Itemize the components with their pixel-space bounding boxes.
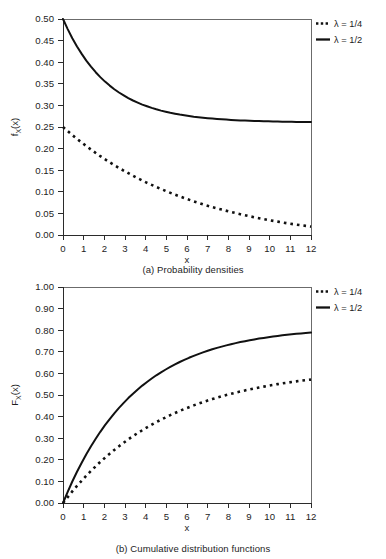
x-ticklabel: 4 <box>143 511 149 522</box>
panel-b-x-ticklabels: 0 1 2 3 4 5 6 7 8 9 10 11 12 <box>60 511 316 522</box>
y-ticklabel: 0.30 <box>35 100 54 111</box>
panel-a-x-ticklabels: 0 1 2 3 4 5 6 7 8 9 10 11 12 <box>60 243 316 254</box>
panel-b-caption: (b) Cumulative distribution functions <box>0 543 386 554</box>
panel-b-y-ticks <box>58 287 63 503</box>
x-ticklabel: 1 <box>81 243 86 254</box>
curve-lambda-one-quarter-cdf <box>63 380 311 503</box>
x-ticklabel: 6 <box>184 511 189 522</box>
y-ticklabel: 0.10 <box>35 476 54 487</box>
curve-lambda-one-half-cdf <box>63 333 311 503</box>
panel-b-x-axis-title: x <box>185 522 190 533</box>
y-ticklabel: 0.50 <box>35 389 54 400</box>
legend-label-lambda-half: λ = 1/2 <box>334 303 362 313</box>
y-ticklabel: 0.00 <box>35 229 54 240</box>
x-ticklabel: 8 <box>226 243 231 254</box>
panel-a-caption: (a) Probability densities <box>0 264 386 275</box>
x-ticklabel: 0 <box>60 511 65 522</box>
panel-b-axes <box>63 287 311 503</box>
x-ticklabel: 1 <box>81 511 86 522</box>
legend-label-lambda-quarter: λ = 1/4 <box>334 19 362 29</box>
x-ticklabel: 12 <box>306 243 317 254</box>
y-axis-title-arg: (x) <box>9 118 20 129</box>
svg-text:FX(x): FX(x) <box>9 384 22 406</box>
y-ticklabel: 0.00 <box>35 497 54 508</box>
y-ticklabel: 1.00 <box>35 281 54 292</box>
x-ticklabel: 9 <box>246 511 251 522</box>
y-ticklabel: 0.80 <box>35 325 54 336</box>
y-ticklabel: 0.35 <box>35 78 54 89</box>
x-ticklabel: 11 <box>285 511 295 522</box>
panel-a-y-axis-title: fX(x) <box>9 118 22 137</box>
x-ticklabel: 7 <box>205 243 210 254</box>
y-ticklabel: 0.45 <box>35 35 54 46</box>
panel-b-x-ticks <box>63 503 311 508</box>
x-ticklabel: 12 <box>306 511 317 522</box>
panel-a-y-ticks <box>58 19 63 235</box>
exponential-distribution-figure: 0.00 0.05 0.10 0.15 0.20 0.25 0.30 0.35 … <box>0 0 386 559</box>
x-ticklabel: 3 <box>122 511 127 522</box>
x-ticklabel: 8 <box>226 511 231 522</box>
panel-a-frame <box>63 19 311 235</box>
y-ticklabel: 0.90 <box>35 303 54 314</box>
y-ticklabel: 0.40 <box>35 411 54 422</box>
y-ticklabel: 0.10 <box>35 186 54 197</box>
y-ticklabel: 0.50 <box>35 13 54 24</box>
y-ticklabel: 0.20 <box>35 454 54 465</box>
y-ticklabel: 0.05 <box>35 208 54 219</box>
svg-text:fX(x): fX(x) <box>9 118 22 137</box>
y-ticklabel: 0.30 <box>35 433 54 444</box>
x-ticklabel: 10 <box>264 511 275 522</box>
x-ticklabel: 0 <box>60 243 65 254</box>
panel-b-frame <box>63 287 311 503</box>
y-axis-title-arg: (x) <box>9 384 20 395</box>
panel-a-legend: λ = 1/4 λ = 1/2 <box>316 19 362 45</box>
panel-b-legend: λ = 1/4 λ = 1/2 <box>316 287 362 313</box>
panel-a-plot: 0.00 0.05 0.10 0.15 0.20 0.25 0.30 0.35 … <box>0 0 386 278</box>
panel-a-x-ticks <box>63 235 311 240</box>
y-ticklabel: 0.20 <box>35 143 54 154</box>
panel-cumulative-distribution: 0.00 0.10 0.20 0.30 0.40 0.50 0.60 0.70 … <box>0 278 386 559</box>
panel-b-y-axis-title: FX(x) <box>9 384 22 406</box>
panel-probability-densities: 0.00 0.05 0.10 0.15 0.20 0.25 0.30 0.35 … <box>0 0 386 278</box>
x-ticklabel: 4 <box>143 243 149 254</box>
x-ticklabel: 3 <box>122 243 127 254</box>
curve-lambda-one-half-density <box>63 19 311 122</box>
y-ticklabel: 0.40 <box>35 57 54 68</box>
x-ticklabel: 5 <box>164 511 169 522</box>
panel-a-y-ticklabels: 0.00 0.05 0.10 0.15 0.20 0.25 0.30 0.35 … <box>35 13 54 240</box>
curve-lambda-one-quarter-density <box>63 127 311 227</box>
x-ticklabel: 5 <box>164 243 169 254</box>
panel-b-plot: 0.00 0.10 0.20 0.30 0.40 0.50 0.60 0.70 … <box>0 278 386 559</box>
x-ticklabel: 11 <box>285 243 295 254</box>
x-ticklabel: 7 <box>205 511 210 522</box>
y-ticklabel: 0.25 <box>35 121 54 132</box>
x-ticklabel: 6 <box>184 243 189 254</box>
panel-b-y-ticklabels: 0.00 0.10 0.20 0.30 0.40 0.50 0.60 0.70 … <box>35 281 54 508</box>
x-ticklabel: 2 <box>102 511 107 522</box>
x-ticklabel: 2 <box>102 243 107 254</box>
x-ticklabel: 9 <box>246 243 251 254</box>
x-ticklabel: 10 <box>264 243 275 254</box>
y-ticklabel: 0.60 <box>35 368 54 379</box>
legend-label-lambda-quarter: λ = 1/4 <box>334 287 362 297</box>
y-ticklabel: 0.15 <box>35 165 54 176</box>
legend-label-lambda-half: λ = 1/2 <box>334 35 362 45</box>
y-ticklabel: 0.70 <box>35 346 54 357</box>
panel-a-axes <box>63 19 311 235</box>
